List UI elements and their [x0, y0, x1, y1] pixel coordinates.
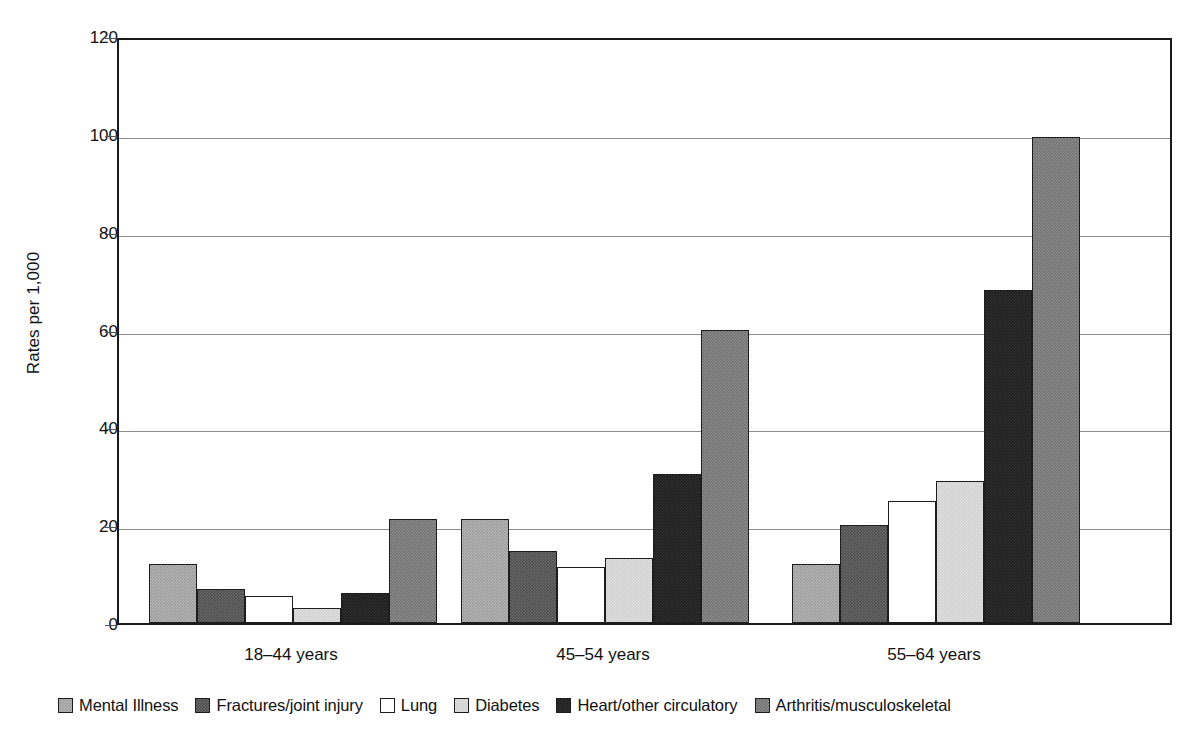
legend-item-label: Lung	[401, 696, 437, 715]
legend-item[interactable]: Lung	[380, 696, 437, 715]
y-axis-title-text: Rates per 1,000	[24, 251, 44, 373]
bar	[245, 596, 293, 623]
bar-group-container	[119, 40, 1170, 623]
y-axis-tick-mark	[105, 136, 117, 137]
y-axis-tick-mark	[105, 234, 117, 235]
bar	[509, 551, 557, 623]
legend-swatch-mental-illness	[58, 698, 73, 713]
bar	[557, 567, 605, 623]
y-axis-tick-mark	[105, 332, 117, 333]
plot-area	[117, 38, 1172, 625]
x-axis-category-label: 45–54 years	[556, 645, 650, 665]
legend-item-label: Heart/other circulatory	[577, 696, 737, 715]
chart-page: Rates per 1,000 020406080100120 18–44 ye…	[0, 0, 1200, 738]
bar	[936, 481, 984, 623]
legend-item-label: Diabetes	[475, 696, 539, 715]
bar	[461, 519, 509, 623]
bar	[792, 564, 840, 623]
bar	[840, 525, 888, 623]
legend-swatch-diabetes	[454, 698, 469, 713]
bar	[653, 474, 701, 623]
y-axis-tick-mark	[105, 625, 117, 626]
legend-swatch-arthritis	[755, 698, 770, 713]
bar	[1032, 137, 1080, 623]
legend-item-label: Fractures/joint injury	[216, 696, 362, 715]
bar	[984, 290, 1032, 623]
legend-swatch-fractures	[195, 698, 210, 713]
y-axis-tick-mark	[105, 38, 117, 39]
legend-swatch-lung	[380, 698, 395, 713]
x-axis-category-labels: 18–44 years45–54 years55–64 years	[117, 645, 1172, 671]
legend-item-label: Mental Illness	[79, 696, 178, 715]
legend-item-label: Arthritis/musculoskeletal	[776, 696, 951, 715]
legend-swatch-heart	[556, 698, 571, 713]
bar	[341, 593, 389, 623]
chart-legend: Mental IllnessFractures/joint injuryLung…	[58, 692, 1168, 718]
bar	[605, 558, 653, 623]
legend-item[interactable]: Heart/other circulatory	[556, 696, 737, 715]
y-axis-tick-mark	[105, 527, 117, 528]
y-axis-tick-mark	[105, 429, 117, 430]
bar	[701, 330, 749, 623]
bar	[888, 501, 936, 623]
legend-item[interactable]: Arthritis/musculoskeletal	[755, 696, 951, 715]
legend-item[interactable]: Fractures/joint injury	[195, 696, 362, 715]
x-axis-category-label: 18–44 years	[244, 645, 338, 665]
bar	[293, 608, 341, 623]
legend-item[interactable]: Diabetes	[454, 696, 539, 715]
bar	[149, 564, 197, 623]
bar	[197, 589, 245, 623]
bar	[389, 519, 437, 623]
x-axis-category-label: 55–64 years	[887, 645, 981, 665]
legend-item[interactable]: Mental Illness	[58, 696, 178, 715]
